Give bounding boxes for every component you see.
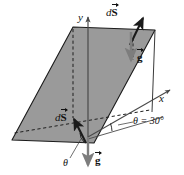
ds-bottom-label: dS [55, 112, 67, 123]
g-bottom-label-vector: g [95, 155, 101, 166]
ds-top-label-vector: S [112, 7, 118, 18]
angle-leader-line [118, 122, 133, 125]
ds-bottom-label-symbol: S [61, 111, 67, 123]
ds-top-label-symbol: S [112, 6, 118, 18]
diagram-canvas [0, 0, 184, 175]
theta-bottom-label: θ [63, 158, 68, 168]
g-bottom-label-symbol: g [95, 154, 101, 166]
vector-arrow-icon [137, 49, 143, 50]
theta-value-label: θ = 30° [133, 116, 164, 126]
vector-arrow-icon [61, 109, 67, 110]
g-bottom-label: g [95, 155, 101, 166]
physics-diagram-figure: y x dS g dS g θ θ = 30° [0, 0, 184, 175]
y-axis-label: y [78, 12, 83, 23]
x-axis-label: x [159, 93, 164, 104]
ds-top-label: dS [106, 7, 118, 18]
vector-arrow-icon [112, 4, 118, 5]
g-top-label-vector: g [137, 52, 143, 63]
angle-arc [111, 124, 113, 132]
vector-arrow-icon [95, 152, 101, 153]
ds-bottom-label-vector: S [61, 112, 67, 123]
g-top-label-symbol: g [137, 51, 143, 63]
g-top-label: g [137, 52, 143, 63]
